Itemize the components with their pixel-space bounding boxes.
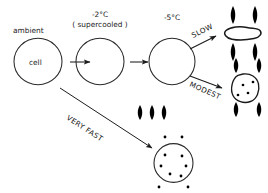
ice-crystal (257, 58, 262, 73)
ice-crystal (234, 102, 239, 117)
ice-crystal (234, 58, 239, 73)
ice-crystal (231, 43, 236, 61)
diagram-canvas: ambient cell -2°C ( supercooled ) -5°C S… (0, 0, 268, 193)
intracellular-ice-dot (180, 175, 183, 178)
ice-crystal (253, 43, 258, 61)
cell-modest (232, 74, 259, 103)
ice-crystal (150, 105, 155, 120)
rate-label-very-fast: VERY FAST (65, 113, 105, 143)
cell-very-fast (154, 144, 193, 183)
intracellular-ice-dot (164, 154, 167, 157)
ice-crystal (162, 105, 167, 120)
rate-label-modest: MODEST (188, 80, 222, 102)
intracellular-ice-dot (169, 173, 172, 176)
intracellular-ice-dot (252, 81, 255, 84)
intracellular-ice-dot (242, 84, 245, 87)
ice-crystal (257, 102, 262, 117)
stage-label-minus5: -5°C (164, 13, 180, 22)
intracellular-ice-dot (247, 92, 250, 95)
intracellular-ice-dot (185, 165, 188, 168)
intracellular-ice-dot (237, 94, 240, 97)
ice-crystal (138, 105, 143, 120)
ice-dot (164, 136, 167, 139)
freezing-diagram-svg: ambient cell -2°C ( supercooled ) -5°C S… (0, 0, 268, 193)
ice-dot (187, 186, 190, 189)
stage-label-ambient: ambient (13, 26, 44, 35)
cell-ambient-label: cell (29, 58, 42, 67)
ice-dot (181, 136, 184, 139)
ice-crystal (253, 6, 258, 24)
intracellular-ice-dot (181, 155, 184, 158)
ice-dot (158, 186, 161, 189)
cell-slow-dehydrated (225, 27, 261, 40)
rate-label-slow: SLOW (190, 22, 214, 40)
stage-label-minus2-temp: -2°C (92, 10, 108, 19)
cell-minus5 (149, 38, 195, 84)
stage-label-minus2-sub: ( supercooled ) (72, 20, 128, 29)
intracellular-ice-dot (160, 165, 163, 168)
ice-crystal (231, 6, 236, 24)
